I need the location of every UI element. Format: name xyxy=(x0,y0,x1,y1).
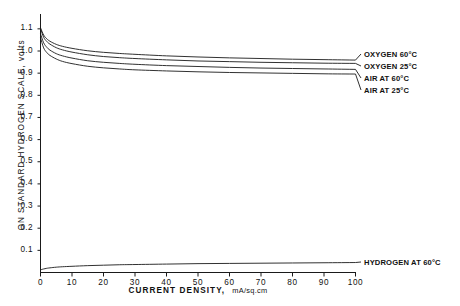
leader-line xyxy=(356,262,362,263)
x-axis-title: CURRENT DENSITY,mA/sq.cm xyxy=(40,286,356,295)
curve-oxygen-60-c xyxy=(41,28,356,60)
x-tick-label: 30 xyxy=(120,278,150,287)
x-tick-label: 70 xyxy=(246,278,276,287)
series-label-air-25: AIR AT 25°C xyxy=(364,86,409,95)
y-tick-label: 0.7 xyxy=(5,112,33,121)
x-tick-label: 20 xyxy=(89,278,119,287)
data-curves xyxy=(41,28,356,270)
curve-air-at-60-c xyxy=(41,34,356,70)
x-tick-label: 60 xyxy=(215,278,245,287)
y-tick-label: 0.2 xyxy=(5,223,33,232)
polarization-curve-figure: ON STANDARD HYDROGEN SCALE, volts CURREN… xyxy=(0,0,460,306)
x-tick-label: 0 xyxy=(26,278,56,287)
x-tick-label: 10 xyxy=(57,278,87,287)
series-label-hydrogen-60: HYDROGEN AT 60°C xyxy=(364,258,441,267)
x-axis-units: mA/sq.cm xyxy=(232,286,267,295)
y-tick-label: 0.5 xyxy=(5,156,33,165)
y-tick-label: 0.6 xyxy=(5,134,33,143)
y-tick-label: 0.1 xyxy=(5,245,33,254)
series-label-oxygen-25: OXYGEN 25°C xyxy=(364,62,417,71)
series-label-air-60: AIR AT 60°C xyxy=(364,74,409,83)
leader-line xyxy=(356,63,362,66)
x-tick-label: 100 xyxy=(341,278,371,287)
axes-group xyxy=(41,14,356,273)
curve-oxygen-25-c xyxy=(41,29,356,64)
leader-lines xyxy=(356,54,362,263)
x-tick-label: 90 xyxy=(309,278,339,287)
y-tick-label: 1.1 xyxy=(5,23,33,32)
y-tick-label: 0.3 xyxy=(5,201,33,210)
curve-hydrogen-at-60-c xyxy=(41,263,356,270)
series-label-oxygen-60: OXYGEN 60°C xyxy=(364,50,417,59)
x-axis-title-text: CURRENT DENSITY, xyxy=(128,286,225,295)
y-tick-label: 1.0 xyxy=(5,46,33,55)
leader-line xyxy=(356,54,362,60)
y-tick-label: 0.9 xyxy=(5,68,33,77)
x-tick-label: 50 xyxy=(183,278,213,287)
x-tick-label: 40 xyxy=(152,278,182,287)
y-tick-label: 0.4 xyxy=(5,178,33,187)
y-tick-label: 0.8 xyxy=(5,90,33,99)
x-tick-label: 80 xyxy=(278,278,308,287)
